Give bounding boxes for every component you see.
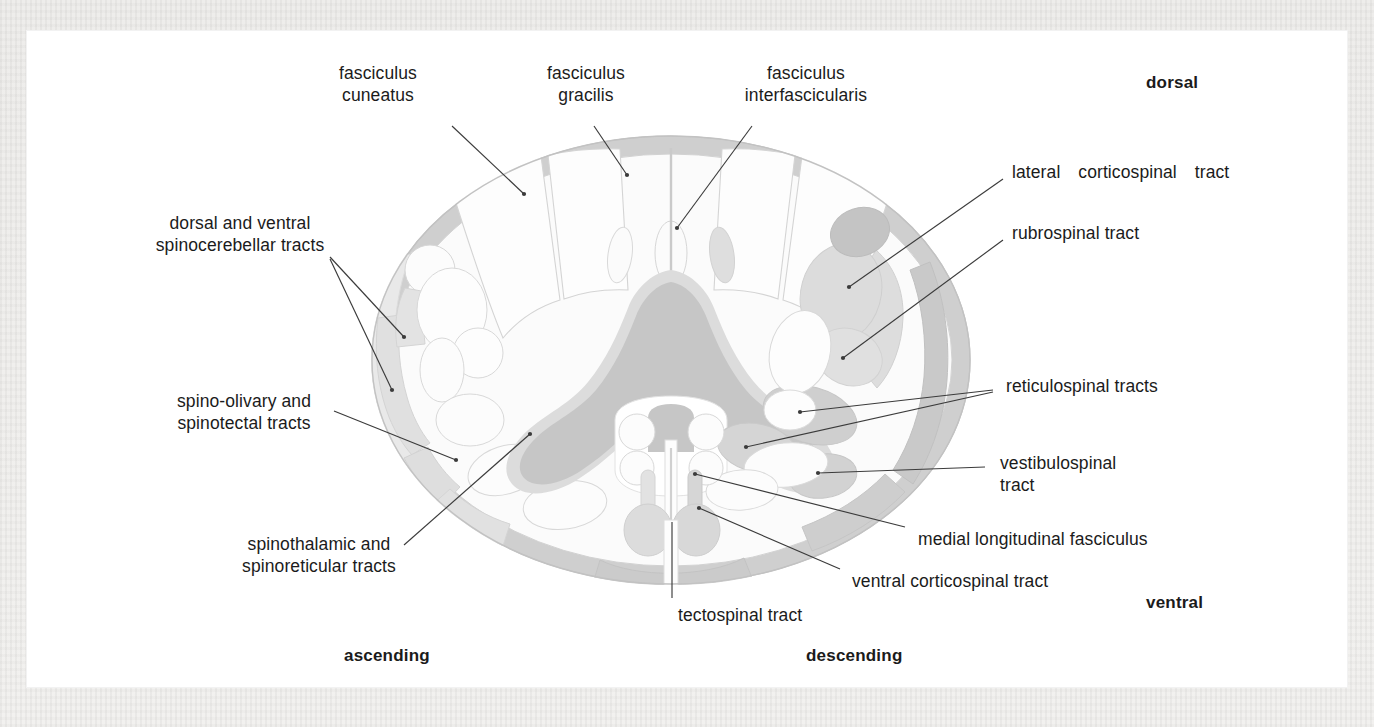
label-vestibulospinal-tract: vestibulospinal tract [1000,452,1200,497]
figure-page: fasciculus cuneatus fasciculus gracilis … [0,0,1374,727]
orientation-ascending: ascending [344,645,430,667]
left-lateral-field-d [420,338,464,402]
label-fasciculus-gracilis: fasciculus gracilis [500,62,672,107]
ventral-median-fissure-lower [664,520,678,594]
label-spino-olivary-and-spinotectal-tracts: spino-olivary and spinotectal tracts [136,390,352,435]
label-fasciculus-interfascicularis: fasciculus interfascicularis [712,62,900,107]
right-lateral-field-b [764,390,816,430]
left-central-field-a [619,414,655,450]
ventral-corticospinal-tract [672,504,720,556]
left-lateral-field-e [436,394,504,446]
label-dorsal-and-ventral-spinocerebellar-tracts: dorsal and ventral spinocerebellar tract… [128,212,352,257]
right-central-field-a [688,414,724,450]
label-fasciculus-cuneatus: fasciculus cuneatus [292,62,464,107]
orientation-dorsal: dorsal [1146,72,1198,94]
label-rubrospinal-tract: rubrospinal tract [1012,222,1292,244]
orientation-ventral: ventral [1146,592,1203,614]
label-medial-longitudinal-fasciculus: medial longitudinal fasciculus [918,528,1218,550]
label-spinothalamic-and-spinoreticular-tracts: spinothalamic and spinoreticular tracts [196,533,442,578]
label-lateral-corticospinal-tract: lateral corticospinal tract [1012,161,1312,183]
label-tectospinal-tract: tectospinal tract [678,604,918,626]
label-ventral-corticospinal-tract: ventral corticospinal tract [852,570,1152,592]
label-reticulospinal-tracts: reticulospinal tracts [1006,375,1286,397]
orientation-descending: descending [806,645,902,667]
cord-body [369,136,970,594]
